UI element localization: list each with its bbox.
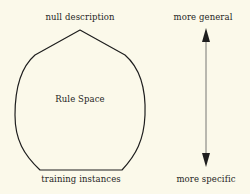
more-specific-label: more specific <box>176 174 235 184</box>
generality-axis-arrow <box>202 28 210 167</box>
more-general-label: more general <box>174 12 233 22</box>
rule-space-shape <box>0 0 250 194</box>
arrow-up-icon <box>202 28 210 42</box>
rule-space-label: Rule Space <box>55 94 104 104</box>
training-instances-label: training instances <box>41 174 121 184</box>
arrow-down-icon <box>202 153 210 167</box>
rule-space-diagram: null description Rule Space training ins… <box>0 0 250 194</box>
